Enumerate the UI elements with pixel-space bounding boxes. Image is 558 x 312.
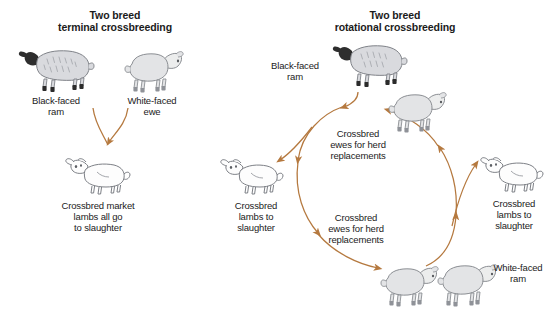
label-crossbred-market-lambs: Crossbred market lambs all go to slaught… xyxy=(28,200,168,234)
label-black-faced-ram-top: Black-faced ram xyxy=(258,60,332,82)
cycle-label-lower: Crossbred ewes for herd replacements xyxy=(304,212,408,246)
figure-crossbred-market-lamb xyxy=(62,150,134,198)
figure-crossbred-lambs-left xyxy=(218,152,286,198)
panel-title-terminal: Two breed terminal crossbreeding xyxy=(10,9,220,33)
panel-title-rotational: Two breed rotational crossbreeding xyxy=(290,9,500,33)
cycle-label-upper: Crossbred ewes for herd replacements xyxy=(306,128,410,162)
panel-terminal-crossbreeding: Two breed terminal crossbreeding xyxy=(0,0,230,312)
figure-crossbred-ewe-upper xyxy=(378,82,450,134)
diagram-canvas: Two breed terminal crossbreeding xyxy=(0,0,558,312)
label-black-faced-ram: Black-faced ram xyxy=(8,95,104,117)
figure-crossbred-lambs-right xyxy=(478,150,546,196)
label-white-faced-ram: White-faced ram xyxy=(480,262,556,284)
label-crossbred-lambs-left: Crossbred lambs to slaughter xyxy=(214,200,298,234)
figure-black-faced-ram xyxy=(16,38,96,94)
label-crossbred-lambs-right: Crossbred lambs to slaughter xyxy=(472,198,556,232)
panel-rotational-crossbreeding: Two breed rotational crossbreeding xyxy=(230,0,558,312)
figure-white-faced-ewe xyxy=(112,40,188,94)
label-white-faced-ewe: White-faced ewe xyxy=(104,95,200,117)
